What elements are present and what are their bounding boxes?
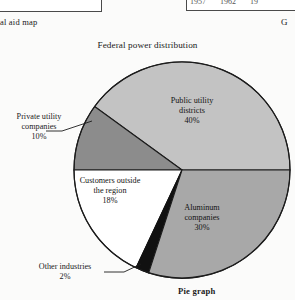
pie-label-other-industries: Other industries 2% xyxy=(22,262,108,282)
pie-label-aluminum-line1: Aluminum xyxy=(184,203,219,212)
pie-label-private-line1: Private utility xyxy=(17,112,62,121)
pie-label-aluminum-percent: 30% xyxy=(164,223,240,233)
pie-label-customers-outside-region: Customers outside the region 18% xyxy=(62,176,158,206)
pie-label-private-line2: companies xyxy=(21,122,56,131)
pie-label-aluminum-line2: companies xyxy=(184,213,219,222)
pie-label-outside-percent: 18% xyxy=(62,196,158,206)
pie-label-private-percent: 10% xyxy=(2,132,76,142)
pie-label-outside-line1: Customers outside xyxy=(80,176,141,185)
figure-caption: Pie graph xyxy=(178,286,215,296)
pie-label-public-utility-districts: Public utility districts 40% xyxy=(150,96,234,126)
pie-slices xyxy=(74,62,290,278)
pie-label-private-utility-companies: Private utility companies 10% xyxy=(2,112,76,142)
pie-label-outside-line2: the region xyxy=(94,186,127,195)
pie-label-aluminum-companies: Aluminum companies 30% xyxy=(164,203,240,233)
pie-label-public-line2: districts xyxy=(179,106,205,115)
pie-label-other-line1: Other industries xyxy=(39,262,92,271)
pie-label-other-percent: 2% xyxy=(22,272,108,282)
pie-chart xyxy=(0,0,295,300)
pie-label-public-percent: 40% xyxy=(150,116,234,126)
pie-label-public-line1: Public utility xyxy=(171,96,214,105)
